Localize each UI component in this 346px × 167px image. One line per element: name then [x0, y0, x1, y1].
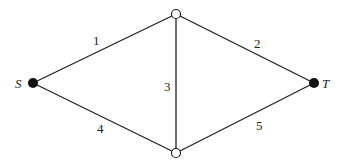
node-source — [28, 78, 38, 88]
node-top — [172, 10, 181, 19]
edge-5 — [176, 83, 314, 153]
edge-label-2: 2 — [254, 36, 261, 51]
edge-label-1: 1 — [93, 33, 100, 48]
edge-label-5: 5 — [256, 118, 263, 133]
edge-1 — [33, 14, 176, 83]
source-label: S — [15, 76, 22, 91]
edge-label-3: 3 — [164, 79, 171, 94]
edge-4 — [33, 83, 176, 153]
node-sink — [309, 78, 319, 88]
sink-label: T — [322, 76, 330, 91]
network-graph: S T 1 2 3 4 5 — [0, 0, 346, 167]
edge-label-4: 4 — [97, 121, 104, 136]
edge-2 — [176, 14, 314, 83]
node-bottom — [172, 149, 181, 158]
